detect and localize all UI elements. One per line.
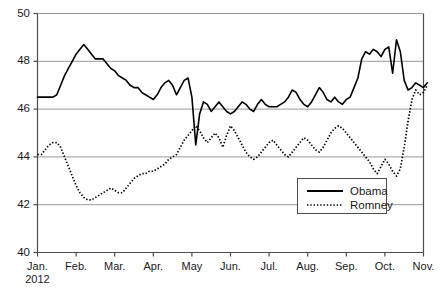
axis-lines xyxy=(38,14,424,253)
x-tick-sublabel: 2012 xyxy=(17,273,59,285)
y-tick-label: 44 xyxy=(8,151,30,163)
gridlines xyxy=(38,14,424,205)
x-tick-label: Apr. xyxy=(132,260,174,272)
legend-swatch-dotted-line xyxy=(307,201,343,209)
chart-legend: Obama Romney xyxy=(297,178,387,214)
x-tick-label: Sep. xyxy=(325,260,367,272)
y-tick-label: 42 xyxy=(8,199,30,211)
y-tick-label: 50 xyxy=(8,8,30,20)
x-tick-label: Jul. xyxy=(248,260,290,272)
data-series-layer xyxy=(38,40,428,200)
x-tick-label: Nov. xyxy=(403,260,440,272)
legend-swatch-solid-line xyxy=(307,187,343,195)
polling-line-chart: 404244464850 Jan.2012Feb.Mar.Apr.MayJun.… xyxy=(0,0,440,292)
x-tick-label: May xyxy=(171,260,213,272)
x-tick-label: Feb. xyxy=(55,260,97,272)
y-tick-label: 40 xyxy=(8,247,30,259)
x-tick-label: Jan. xyxy=(17,260,59,272)
legend-entry-obama: Obama xyxy=(307,185,388,197)
x-tick-label: Oct. xyxy=(364,260,406,272)
legend-label-romney: Romney xyxy=(350,199,393,211)
series-line-obama xyxy=(38,40,428,145)
x-tick-label: Aug. xyxy=(287,260,329,272)
x-tick-label: Mar. xyxy=(94,260,136,272)
x-tick-label: Jun. xyxy=(210,260,252,272)
plot-area xyxy=(0,0,440,292)
x-axis-ticks xyxy=(38,253,424,257)
y-tick-label: 46 xyxy=(8,103,30,115)
legend-entry-romney: Romney xyxy=(307,199,393,211)
legend-label-obama: Obama xyxy=(350,185,388,197)
y-tick-label: 48 xyxy=(8,55,30,67)
